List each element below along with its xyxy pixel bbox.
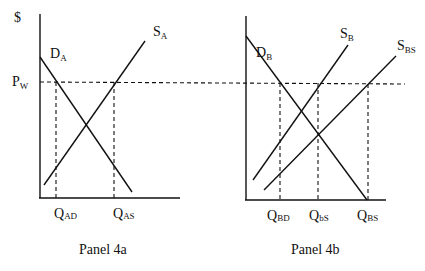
demand-curve-b	[246, 36, 367, 200]
panel-a-caption: Panel 4a	[79, 242, 128, 257]
supply-label-b: SB	[340, 26, 354, 43]
qad-label: QAD	[54, 206, 78, 221]
qbd-label: QBD	[267, 208, 290, 223]
world-price-line	[40, 82, 405, 84]
panel-4a: $ PW DA SA QAD QAS Panel 4a	[12, 10, 180, 257]
qbs-label: QBS	[357, 208, 378, 223]
panel-b-caption: Panel 4b	[291, 242, 340, 257]
demand-label-b: DB	[256, 45, 272, 62]
supply-label-bs: SBS	[397, 38, 416, 55]
panel-4b: DB SB SBS QBD QbS QBS Panel 4b	[245, 16, 416, 257]
qbs-small-label: QbS	[309, 208, 329, 223]
demand-label-a: DA	[50, 46, 67, 63]
qas-label: QAS	[113, 206, 135, 221]
world-price-label: PW	[12, 74, 29, 91]
y-axis-label: $	[14, 10, 21, 25]
trade-diagram: $ PW DA SA QAD QAS Panel 4a DB SB SBS QB…	[0, 0, 425, 271]
supply-label-a: SA	[153, 24, 168, 41]
supply-curve-bs	[264, 56, 396, 190]
